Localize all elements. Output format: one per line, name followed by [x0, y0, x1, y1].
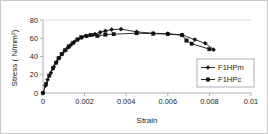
- legend-label-F1HPc: F1HPc: [218, 75, 241, 84]
- y-tick-label-1: 20: [30, 70, 38, 79]
- series-F1HPc-point-8: [67, 45, 70, 48]
- series-F1HPc-point-2: [48, 74, 51, 77]
- chart-legend[interactable]: F1HPmF1HPc: [197, 59, 254, 87]
- series-F1HPc-point-18: [152, 32, 155, 35]
- series-F1HPm-point-19: [110, 27, 114, 31]
- series-F1HPc-point-13: [90, 33, 93, 36]
- series-F1HPc-point-20: [180, 33, 183, 36]
- series-F1HPc-point-0: [41, 91, 44, 94]
- x-axis-title: Strain: [137, 116, 158, 125]
- series-F1HPm-point-20: [119, 27, 123, 31]
- x-tick-label-1: 0.002: [75, 97, 94, 106]
- series-F1HPc-point-22: [190, 42, 193, 45]
- series-F1HPm-point-17: [98, 30, 102, 34]
- data-series: [41, 27, 216, 95]
- series-F1HPc-point-10: [76, 38, 79, 41]
- series-F1HPm: [41, 27, 216, 95]
- series-F1HPc-point-12: [85, 34, 88, 37]
- svg-text:Stress ( N/mm2): Stress ( N/mm2): [10, 29, 19, 86]
- series-F1HPc-point-11: [80, 36, 83, 39]
- x-tick-label-5: 0.01: [244, 97, 258, 106]
- y-tick-labels: 020406080: [30, 16, 38, 98]
- series-F1HPc-point-5: [57, 57, 60, 60]
- series-F1HPc-point-4: [54, 61, 57, 64]
- x-tick-label-0: 0: [41, 97, 45, 106]
- series-F1HPc-point-15: [104, 33, 107, 36]
- y-tick-label-3: 60: [30, 34, 38, 43]
- series-F1HPc-point-7: [64, 48, 67, 51]
- x-tick-label-2: 0.004: [117, 97, 136, 106]
- series-F1HPc-point-17: [135, 32, 138, 35]
- series-F1HPc-point-9: [71, 41, 74, 44]
- legend-label-F1HPm: F1HPm: [218, 63, 244, 72]
- series-F1HPc-point-23: [208, 48, 211, 51]
- series-F1HPc-point-1: [44, 82, 47, 85]
- series-F1HPc-point-21: [185, 39, 188, 42]
- chart-figure: 00.0020.0040.0060.0080.01 020406080 F1HP…: [0, 0, 268, 134]
- series-F1HPm-point-25: [193, 38, 197, 42]
- y-tick-label-0: 0: [34, 89, 38, 98]
- y-tick-label-2: 40: [30, 52, 38, 61]
- series-F1HPc-point-16: [112, 32, 115, 35]
- series-F1HPc-point-6: [60, 53, 63, 56]
- stress-strain-chart: 00.0020.0040.0060.0080.01 020406080 F1HP…: [1, 1, 268, 134]
- series-F1HPc-point-14: [96, 34, 99, 37]
- y-axis-title: Stress ( N/mm2): [10, 29, 19, 86]
- x-tick-label-4: 0.008: [200, 97, 219, 106]
- series-F1HPc: [41, 32, 211, 95]
- x-tick-labels: 00.0020.0040.0060.0080.01: [41, 97, 258, 106]
- series-F1HPm-point-18: [103, 29, 107, 33]
- y-tick-label-4: 80: [30, 16, 38, 25]
- x-tick-label-3: 0.006: [159, 97, 178, 106]
- legend-marker-F1HPc: [206, 78, 209, 81]
- series-line-F1HPc: [43, 33, 209, 93]
- series-F1HPc-point-19: [166, 32, 169, 35]
- series-F1HPc-point-3: [51, 67, 54, 70]
